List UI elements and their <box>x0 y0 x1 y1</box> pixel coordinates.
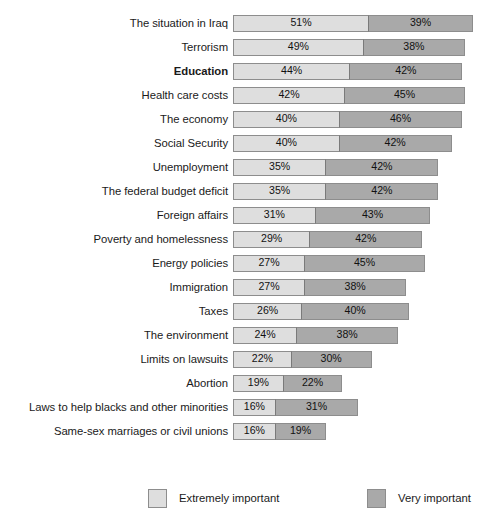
legend-item-very-important: Very important <box>367 488 471 508</box>
bar-segment-extremely-important: 31% <box>233 207 316 224</box>
bar-segment-value: 38% <box>337 329 358 340</box>
bar-segment-very-important: 45% <box>344 87 465 104</box>
bar-segment-value: 35% <box>269 185 290 196</box>
bar-segment-value: 42% <box>371 185 392 196</box>
bar-segment-value: 24% <box>254 329 275 340</box>
row-label: Unemployment <box>0 161 233 174</box>
bar-segment-value: 44% <box>281 65 302 76</box>
legend-label-very-important: Very important <box>398 492 471 505</box>
stacked-bar: 40%46% <box>233 111 462 128</box>
chart-row: The situation in Iraq51%39% <box>0 11 497 35</box>
row-label: Terrorism <box>0 41 233 54</box>
stacked-bar: 16%19% <box>233 423 326 440</box>
bar-segment-extremely-important: 19% <box>233 375 284 392</box>
row-label: Laws to help blacks and other minorities <box>0 401 233 414</box>
bar-segment-value: 27% <box>258 257 279 268</box>
row-label: The federal budget deficit <box>0 185 233 198</box>
bar-segment-very-important: 19% <box>275 423 327 440</box>
bar-segment-value: 26% <box>257 305 278 316</box>
bar-segment-very-important: 40% <box>301 303 409 320</box>
bar-segment-value: 45% <box>394 89 415 100</box>
bar-segment-extremely-important: 51% <box>233 15 369 32</box>
chart-row: Poverty and homelessness29%42% <box>0 227 497 251</box>
bar-segment-extremely-important: 27% <box>233 279 305 296</box>
bar-segment-very-important: 42% <box>309 231 422 248</box>
chart-row: The federal budget deficit35%42% <box>0 179 497 203</box>
stacked-bar: 19%22% <box>233 375 342 392</box>
stacked-bar: 31%43% <box>233 207 430 224</box>
bar-segment-extremely-important: 35% <box>233 183 326 200</box>
stacked-bar: 16%31% <box>233 399 358 416</box>
row-label: Poverty and homelessness <box>0 233 233 246</box>
legend-item-extremely-important: Extremely important <box>148 488 279 508</box>
chart-row: The environment24%38% <box>0 323 497 347</box>
row-label: Foreign affairs <box>0 209 233 222</box>
legend-swatch-extremely-important <box>148 489 167 508</box>
bar-segment-extremely-important: 16% <box>233 423 276 440</box>
bar-segment-value: 42% <box>395 65 416 76</box>
bar-segment-value: 35% <box>269 161 290 172</box>
bar-segment-very-important: 46% <box>339 111 463 128</box>
chart-row: Abortion19%22% <box>0 371 497 395</box>
bar-segment-value: 30% <box>321 353 342 364</box>
bar-segment-very-important: 42% <box>339 135 452 152</box>
chart-row: The economy40%46% <box>0 107 497 131</box>
row-label: Energy policies <box>0 257 233 270</box>
bar-segment-value: 42% <box>371 161 392 172</box>
bar-segment-very-important: 42% <box>349 63 462 80</box>
row-label: The environment <box>0 329 233 342</box>
bar-segment-value: 45% <box>354 257 375 268</box>
row-label: Education <box>0 65 233 78</box>
row-label: Taxes <box>0 305 233 318</box>
bar-segment-extremely-important: 26% <box>233 303 302 320</box>
legend-swatch-very-important <box>367 489 386 508</box>
chart-row: Immigration27%38% <box>0 275 497 299</box>
bar-segment-extremely-important: 40% <box>233 111 340 128</box>
chart-row: Unemployment35%42% <box>0 155 497 179</box>
stacked-bar-chart: The situation in Iraq51%39%Terrorism49%3… <box>0 0 497 527</box>
bar-segment-value: 42% <box>385 137 406 148</box>
bar-segment-extremely-important: 42% <box>233 87 345 104</box>
row-label: Abortion <box>0 377 233 390</box>
bar-segment-value: 31% <box>306 401 327 412</box>
bar-segment-value: 39% <box>410 17 431 28</box>
legend-label-extremely-important: Extremely important <box>179 492 279 505</box>
bar-segment-extremely-important: 16% <box>233 399 276 416</box>
row-label: Immigration <box>0 281 233 294</box>
bar-segment-value: 16% <box>244 401 265 412</box>
row-label: Limits on lawsuits <box>0 353 233 366</box>
row-label: Social Security <box>0 137 233 150</box>
chart-row: Foreign affairs31%43% <box>0 203 497 227</box>
stacked-bar: 40%42% <box>233 135 452 152</box>
chart-row: Education44%42% <box>0 59 497 83</box>
bar-segment-value: 40% <box>345 305 366 316</box>
bar-segment-value: 19% <box>290 425 311 436</box>
stacked-bar: 35%42% <box>233 159 438 176</box>
bar-segment-value: 49% <box>288 41 309 52</box>
chart-row: Taxes26%40% <box>0 299 497 323</box>
bar-segment-very-important: 38% <box>363 39 465 56</box>
bar-segment-value: 38% <box>403 41 424 52</box>
chart-row: Health care costs42%45% <box>0 83 497 107</box>
bar-segment-very-important: 38% <box>304 279 406 296</box>
bar-segment-value: 22% <box>252 353 273 364</box>
stacked-bar: 27%45% <box>233 255 425 272</box>
bar-segment-value: 40% <box>276 113 297 124</box>
stacked-bar: 24%38% <box>233 327 398 344</box>
bar-segment-value: 40% <box>276 137 297 148</box>
bar-segment-extremely-important: 27% <box>233 255 305 272</box>
bar-segment-value: 43% <box>362 209 383 220</box>
bar-segment-very-important: 42% <box>325 183 438 200</box>
chart-row: Limits on lawsuits22%30% <box>0 347 497 371</box>
bar-segment-value: 29% <box>261 233 282 244</box>
bar-segment-value: 42% <box>278 89 299 100</box>
stacked-bar: 49%38% <box>233 39 465 56</box>
stacked-bar: 29%42% <box>233 231 422 248</box>
stacked-bar: 51%39% <box>233 15 473 32</box>
bar-segment-very-important: 42% <box>325 159 438 176</box>
chart-rows: The situation in Iraq51%39%Terrorism49%3… <box>0 11 497 443</box>
bar-segment-value: 38% <box>345 281 366 292</box>
chart-row: Terrorism49%38% <box>0 35 497 59</box>
stacked-bar: 27%38% <box>233 279 406 296</box>
stacked-bar: 42%45% <box>233 87 465 104</box>
